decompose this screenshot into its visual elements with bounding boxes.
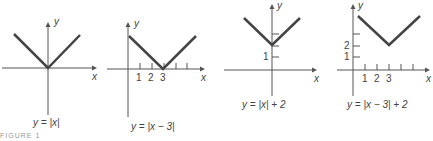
x-axis-label: x	[92, 71, 97, 82]
x-tick-2: 2	[148, 72, 154, 83]
y-axis-label: y	[54, 16, 59, 27]
graph-abs-x-minus-3: y x 1 2 3 y = |x − 3|	[105, 0, 215, 141]
y-axis-label: y	[277, 0, 282, 11]
graph-caption: y = |x − 3| + 2	[347, 99, 408, 110]
graph-caption: y = |x − 3|	[131, 121, 175, 132]
graph-caption: y = |x| + 2	[242, 99, 286, 110]
graph-abs-x-minus-3-plus-2-plot	[320, 0, 433, 141]
figure-label: FIGURE 1	[0, 132, 40, 139]
graph-caption: y = |x|	[33, 117, 60, 128]
x-tick-1: 1	[136, 72, 142, 83]
graph-abs-x-minus-3-plot	[105, 0, 215, 141]
x-axis-label: x	[314, 73, 319, 84]
y-tick-1: 1	[344, 51, 350, 62]
graph-abs-x-minus-3-plus-2: y x 2 1 1 2 3 y = |x − 3| + 2	[320, 0, 433, 141]
y-axis-label: y	[358, 0, 363, 11]
graph-abs-x-plus-2: y x 1 y = |x| + 2	[215, 0, 323, 141]
x-tick-1: 1	[362, 73, 368, 84]
graph-abs-x: y x y = |x|	[0, 0, 105, 141]
x-axis-label: x	[201, 72, 206, 83]
y-axis-label: y	[134, 18, 139, 29]
x-tick-3: 3	[386, 73, 392, 84]
y-tick-1: 1	[263, 51, 269, 62]
graph-abs-x-plus-2-plot	[215, 0, 323, 141]
x-tick-2: 2	[374, 73, 380, 84]
x-axis-label: x	[426, 73, 431, 84]
y-tick-2: 2	[344, 40, 350, 51]
x-tick-3: 3	[160, 72, 166, 83]
